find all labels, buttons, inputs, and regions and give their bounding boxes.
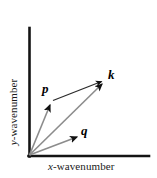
vector-label-p: p xyxy=(42,82,49,95)
vector-label-q: q xyxy=(81,124,88,137)
vector-k-arrow xyxy=(30,84,103,155)
vector-label-k: k xyxy=(108,68,115,81)
x-axis-label: x-wavenumber xyxy=(48,160,115,172)
wavenumber-vector-figure: p k q x-wavenumber y-wavenumber xyxy=(0,0,157,178)
vector-diagram-canvas xyxy=(0,0,157,178)
x-axis-label-suffix: -wavenumber xyxy=(53,160,115,172)
y-axis-label-suffix: -wavenumber xyxy=(7,79,19,141)
vector-label-k-text: k xyxy=(108,67,115,82)
vector-label-p-text: p xyxy=(42,81,49,96)
vector-p-arrow xyxy=(30,105,51,155)
y-axis-label: y-wavenumber xyxy=(7,60,19,164)
y-axis-label-variable: y xyxy=(7,140,19,145)
vector-label-q-text: q xyxy=(81,123,88,138)
